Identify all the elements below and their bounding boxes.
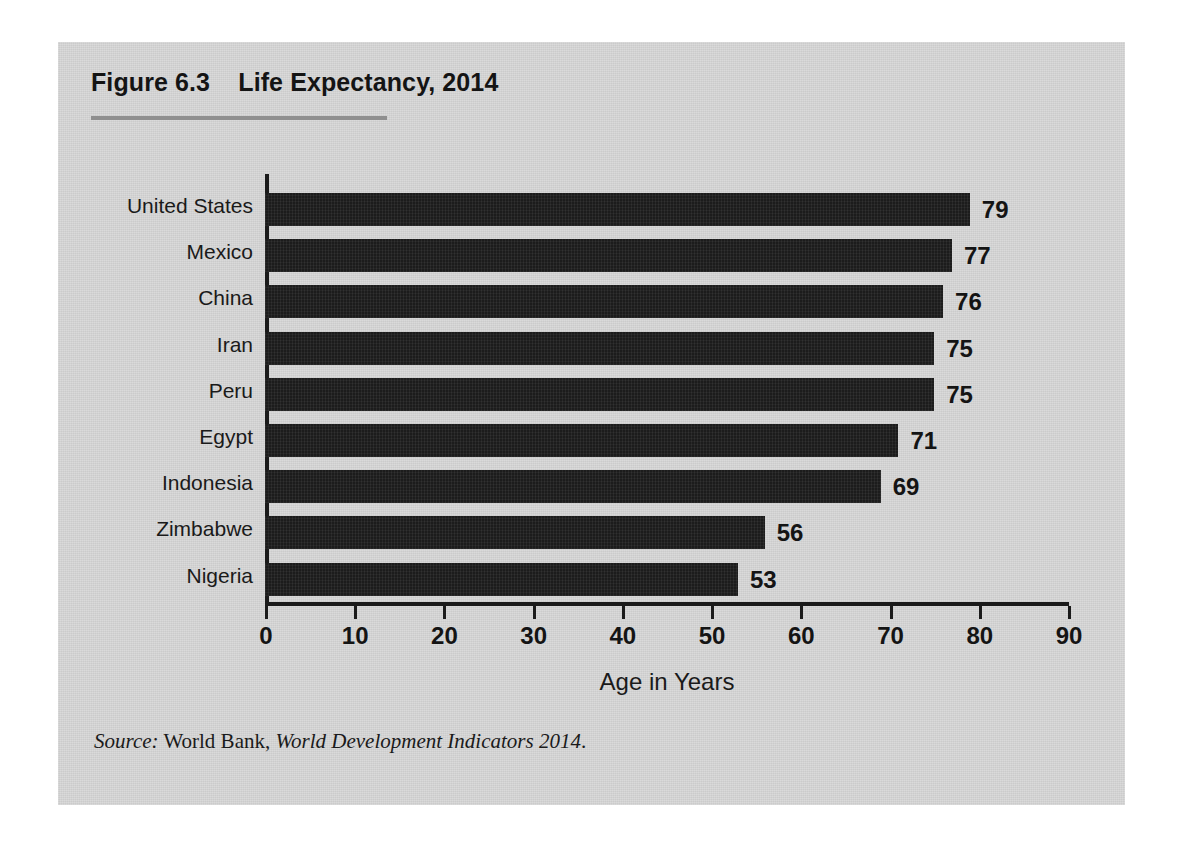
- x-axis-tick-label: 0: [226, 622, 306, 650]
- category-label-wrap: Peru: [0, 378, 253, 411]
- category-label: China: [0, 286, 253, 310]
- bar: [265, 378, 934, 411]
- source-publisher: World Bank,: [159, 729, 276, 753]
- x-axis-tick-label: 70: [851, 622, 931, 650]
- x-axis-tick-label: 80: [940, 622, 1020, 650]
- bar-row: Egypt71: [265, 424, 1068, 457]
- x-axis-tick-mark: [1068, 606, 1071, 619]
- bar-row: United States79: [265, 193, 1068, 226]
- x-axis-tick-label: 30: [494, 622, 574, 650]
- x-axis-line: [265, 602, 1069, 606]
- x-axis-tick-mark: [711, 606, 714, 619]
- bar-row: Indonesia69: [265, 470, 1068, 503]
- x-axis-tick-label: 20: [404, 622, 484, 650]
- category-label: United States: [0, 194, 253, 218]
- bar-row: China76: [265, 285, 1068, 318]
- category-label: Zimbabwe: [0, 517, 253, 541]
- bar-value-label: 69: [893, 473, 920, 501]
- category-label-wrap: United States: [0, 193, 253, 226]
- x-axis-tick-mark: [979, 606, 982, 619]
- bar: [265, 239, 952, 272]
- category-label-wrap: China: [0, 285, 253, 318]
- category-label: Mexico: [0, 240, 253, 264]
- figure-title: Figure 6.3 Life Expectancy, 2014: [91, 68, 498, 97]
- category-label-wrap: Zimbabwe: [0, 516, 253, 549]
- source-note: Source: World Bank, World Development In…: [94, 729, 586, 754]
- x-axis-tick-mark: [443, 606, 446, 619]
- bar-row: Zimbabwe56: [265, 516, 1068, 549]
- category-label: Iran: [0, 333, 253, 357]
- bar-row: Peru75: [265, 378, 1068, 411]
- bar-value-label: 75: [946, 381, 973, 409]
- bar-value-label: 77: [964, 242, 991, 270]
- bar-value-label: 79: [982, 196, 1009, 224]
- category-label: Peru: [0, 379, 253, 403]
- x-axis-tick-label: 90: [1029, 622, 1109, 650]
- title-divider: [91, 116, 387, 120]
- figure-panel: Figure 6.3 Life Expectancy, 2014 United …: [58, 42, 1125, 805]
- category-label-wrap: Egypt: [0, 424, 253, 457]
- bar: [265, 516, 765, 549]
- bar-value-label: 71: [910, 427, 937, 455]
- bar-row: Mexico77: [265, 239, 1068, 272]
- source-period: .: [581, 729, 586, 753]
- x-axis-tick-mark: [354, 606, 357, 619]
- category-label-wrap: Mexico: [0, 239, 253, 272]
- source-label: Source:: [94, 729, 159, 753]
- bar: [265, 470, 881, 503]
- x-axis-tick-label: 50: [672, 622, 752, 650]
- x-axis-tick-label: 60: [761, 622, 841, 650]
- bar: [265, 563, 738, 596]
- bar: [265, 193, 970, 226]
- bar: [265, 285, 943, 318]
- x-axis-tick-mark: [265, 606, 268, 619]
- bar-value-label: 56: [777, 519, 804, 547]
- bar-row: Iran75: [265, 332, 1068, 365]
- bar: [265, 332, 934, 365]
- bar-chart: United States79Mexico77China76Iran75Peru…: [58, 42, 1125, 805]
- bar-value-label: 75: [946, 335, 973, 363]
- bar-row: Nigeria53: [265, 563, 1068, 596]
- x-axis-tick-label: 40: [583, 622, 663, 650]
- category-label-wrap: Indonesia: [0, 470, 253, 503]
- x-axis-tick-mark: [622, 606, 625, 619]
- category-label-wrap: Iran: [0, 332, 253, 365]
- bar-value-label: 53: [750, 566, 777, 594]
- category-label: Nigeria: [0, 564, 253, 588]
- x-axis-tick-label: 10: [315, 622, 395, 650]
- category-label: Egypt: [0, 425, 253, 449]
- x-axis-tick-mark: [890, 606, 893, 619]
- x-axis-tick-mark: [800, 606, 803, 619]
- source-work-title: World Development Indicators 2014: [275, 729, 580, 753]
- bar: [265, 424, 898, 457]
- category-label-wrap: Nigeria: [0, 563, 253, 596]
- bar-value-label: 76: [955, 288, 982, 316]
- x-axis-title: Age in Years: [265, 668, 1069, 696]
- x-axis-tick-mark: [533, 606, 536, 619]
- category-label: Indonesia: [0, 471, 253, 495]
- plot-area: United States79Mexico77China76Iran75Peru…: [265, 174, 1068, 602]
